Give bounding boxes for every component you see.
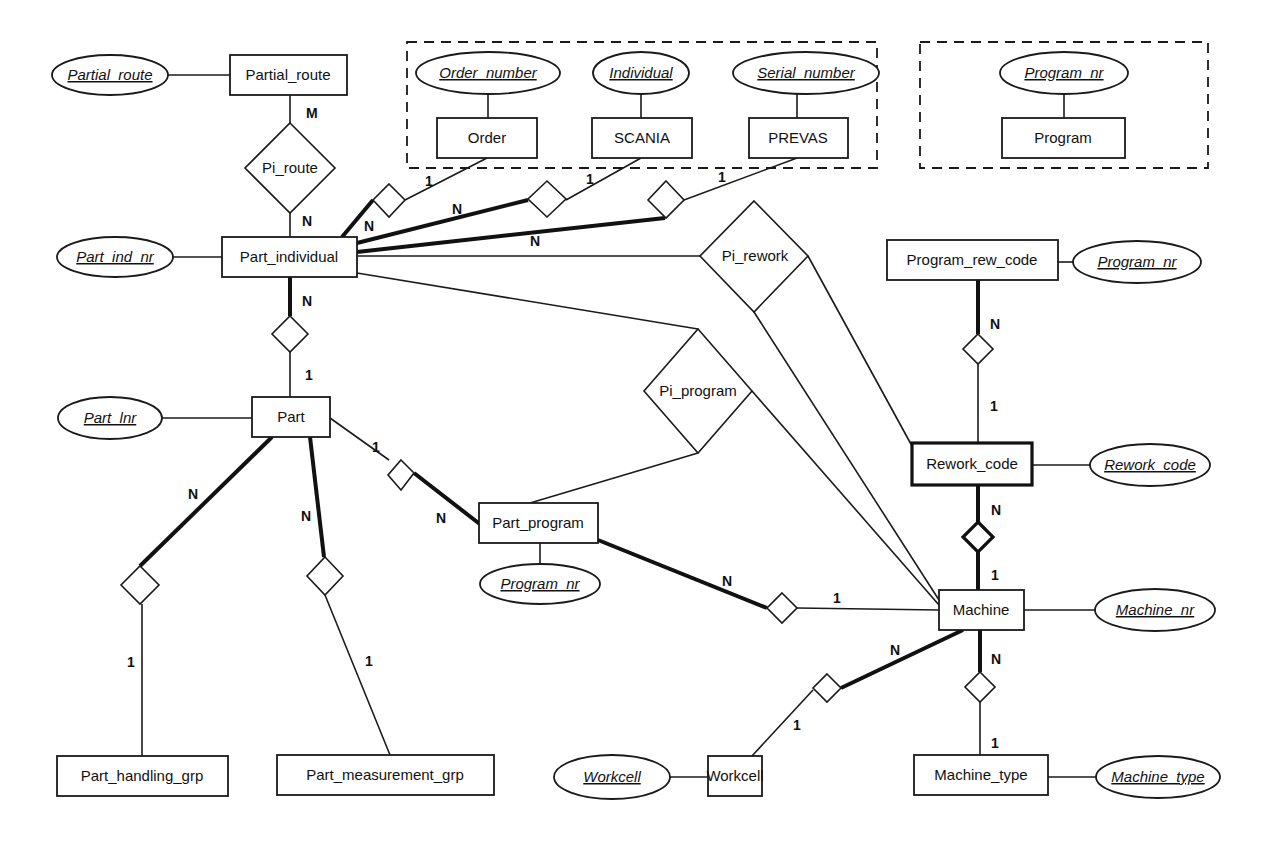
relationship-scania-diamond (528, 181, 566, 217)
svg-text:Part_measurement_grp: Part_measurement_grp (306, 766, 464, 783)
svg-text:Program: Program (1034, 129, 1092, 146)
entity-scania: SCANIA (592, 118, 692, 158)
svg-text:Workcell: Workcell (706, 767, 763, 784)
relationship-order-diamond (373, 184, 405, 217)
entity-rework-code: Rework_code (912, 443, 1032, 485)
svg-text:Program_nr: Program_nr (500, 575, 580, 592)
entity-order: Order (437, 118, 537, 158)
svg-text:Part_lnr: Part_lnr (84, 409, 138, 426)
attribute-program-nr-rew: Program_nr (1073, 241, 1201, 283)
attribute-machine-type: Machine_type (1096, 756, 1220, 798)
svg-text:Program_rew_code: Program_rew_code (907, 251, 1038, 268)
svg-text:Pi_program: Pi_program (659, 382, 737, 399)
entity-program: Program (1002, 118, 1125, 158)
attribute-machine-nr: Machine_nr (1095, 589, 1215, 631)
svg-text:Rework_code: Rework_code (926, 455, 1018, 472)
svg-text:Machine_nr: Machine_nr (1116, 601, 1195, 618)
svg-text:Order_number: Order_number (439, 64, 538, 81)
cardinality-label: N (890, 642, 900, 658)
attribute-part-ind-nr: Part_ind_nr (57, 237, 173, 277)
svg-text:Partial_route: Partial_route (67, 66, 152, 83)
relationship-pi-program: Pi_program (644, 329, 752, 453)
relationship-partprogram-machine-diamond (767, 593, 797, 623)
cardinality-label: N (188, 486, 198, 502)
cardinality-label: 1 (833, 590, 841, 606)
cardinality-label: N (991, 502, 1001, 518)
cardinality-label: N (436, 510, 446, 526)
relationship-part-partprogram-diamond (388, 460, 414, 490)
attribute-part-lnr: Part_lnr (58, 397, 162, 439)
svg-text:Program_nr: Program_nr (1097, 253, 1177, 270)
svg-text:Partial_route: Partial_route (245, 66, 330, 83)
svg-text:PREVAS: PREVAS (768, 129, 828, 146)
cardinality-label: 1 (365, 653, 373, 669)
cardinality-label: M (306, 105, 318, 121)
svg-text:Part_ind_nr: Part_ind_nr (76, 248, 155, 265)
relationship-prevas-diamond (648, 181, 684, 218)
svg-text:Machine_type: Machine_type (934, 766, 1027, 783)
relationship-part-handling-diamond (121, 566, 159, 604)
relationship-pi-route: Pi_route (245, 123, 335, 213)
attribute-rework-code: Rework_code (1090, 444, 1210, 486)
entity-machine-type: Machine_type (914, 755, 1048, 795)
relationship-pi-rework: Pi_rework (700, 201, 808, 312)
cardinality-label: 1 (793, 717, 801, 733)
svg-text:Individual: Individual (609, 64, 673, 81)
er-diagram: Partial_route Part_ind_nr Order_number I… (0, 0, 1265, 846)
svg-text:Workcell: Workcell (583, 768, 641, 785)
attribute-partial-route: Partial_route (52, 55, 168, 95)
entity-part-handling-grp: Part_handling_grp (57, 756, 228, 796)
cardinality-label: 1 (991, 735, 999, 751)
cardinality-label: N (364, 218, 374, 234)
svg-text:Machine_type: Machine_type (1111, 768, 1204, 785)
relationship-machine-type-diamond (965, 672, 995, 702)
svg-text:SCANIA: SCANIA (614, 129, 670, 146)
entity-workcell: Workcell (706, 756, 763, 796)
entity-part-measurement-grp: Part_measurement_grp (277, 755, 494, 795)
cardinality-label: N (722, 573, 732, 589)
svg-text:Machine: Machine (953, 601, 1010, 618)
cardinality-label: 1 (127, 654, 135, 670)
svg-text:Order: Order (468, 129, 506, 146)
cardinality-label: N (991, 651, 1001, 667)
cardinality-label: 1 (425, 173, 433, 189)
cardinality-label: N (530, 233, 540, 249)
svg-text:Pi_rework: Pi_rework (722, 247, 789, 264)
svg-text:Part: Part (277, 408, 305, 425)
svg-text:Program_nr: Program_nr (1024, 64, 1104, 81)
cardinality-label: N (302, 293, 312, 309)
cardinality-label: N (301, 508, 311, 524)
svg-text:Rework_code: Rework_code (1104, 456, 1196, 473)
attribute-program-nr-group: Program_nr (1000, 52, 1128, 94)
attribute-individual: Individual (593, 52, 689, 94)
relationship-rework-machine-diamond (963, 522, 993, 552)
entity-part-individual: Part_individual (222, 237, 357, 277)
cardinality-label: 1 (991, 567, 999, 583)
cardinality-label: 1 (372, 439, 380, 455)
attribute-workcell: Workcell (554, 755, 670, 799)
entity-machine: Machine (939, 590, 1024, 630)
cardinality-label: 1 (305, 367, 313, 383)
attribute-program-nr-part: Program_nr (480, 564, 600, 604)
cardinality-label: 1 (586, 171, 594, 187)
svg-text:Part_individual: Part_individual (240, 248, 338, 265)
relationship-progrew-rework-diamond (963, 334, 993, 364)
relationship-part-individual-part-diamond (272, 316, 308, 352)
attribute-serial-number: Serial_number (733, 52, 879, 94)
entity-program-rew-code: Program_rew_code (887, 240, 1058, 280)
svg-text:Part_program: Part_program (492, 514, 584, 531)
cardinality-label: N (990, 316, 1000, 332)
cardinality-label: N (302, 213, 312, 229)
entity-part: Part (252, 397, 330, 437)
svg-text:Part_handling_grp: Part_handling_grp (81, 767, 204, 784)
entity-part-program: Part_program (479, 503, 598, 543)
cardinality-label: 1 (990, 398, 998, 414)
svg-text:Serial_number: Serial_number (757, 64, 856, 81)
cardinality-label: 1 (718, 169, 726, 185)
relationship-machine-workcell-diamond (813, 674, 841, 702)
svg-text:Pi_route: Pi_route (262, 159, 318, 176)
cardinality-label: N (452, 201, 462, 217)
relationship-part-measurement-diamond (307, 557, 343, 595)
entity-partial-route: Partial_route (230, 55, 347, 95)
attribute-order-number: Order_number (416, 52, 560, 94)
